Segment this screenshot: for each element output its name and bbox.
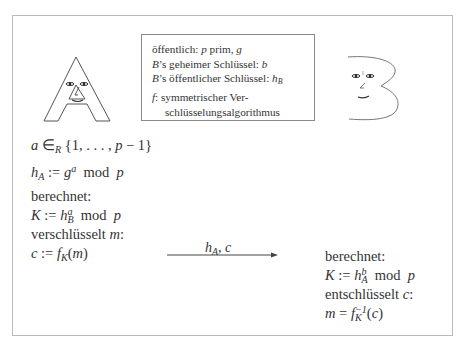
info-cipher: f: symmetrischer Ver- (152, 90, 314, 105)
info-public-params: öffentlich: p prim, g (152, 42, 314, 57)
info-public-key: B’s öffentlicher Schlüssel: hB (152, 71, 314, 90)
bob-b-face-icon (345, 55, 405, 125)
alice-steps: a ∈R {1, . . . , p − 1} hA := ga mod p b… (31, 136, 152, 268)
bob-steps: berechnet: K := hbA mod p entschlüsselt … (325, 247, 415, 323)
alice-compute-key: K := haB mod p (31, 206, 152, 225)
alice-encrypts-label: verschlüsselt m: (31, 225, 152, 244)
bob-decrypt: m = f−1K(c) (325, 304, 415, 323)
alice-encrypt: c := fK(m) (31, 244, 152, 268)
bob-computes-label: berechnet: (325, 247, 415, 266)
bob-compute-key: K := hbA mod p (325, 266, 415, 285)
message-transfer: hA, c (167, 240, 279, 260)
info-secret-key: B’s geheimer Schlüssel: b (152, 57, 314, 72)
info-cipher-cont: schlüsselungsalgorithmus (152, 105, 314, 120)
alice-compute-ha: hA := ga mod p (31, 160, 152, 187)
public-info-box: öffentlich: p prim, g B’s geheimer Schlü… (141, 34, 315, 121)
bob-decrypts-label: entschlüsselt c: (325, 285, 415, 304)
alice-choose-a: a ∈R {1, . . . , p − 1} (31, 136, 152, 160)
alice-computes-label: berechnet: (31, 187, 152, 206)
alice-a-face-icon (40, 55, 115, 125)
arrow-right-icon (167, 250, 279, 260)
